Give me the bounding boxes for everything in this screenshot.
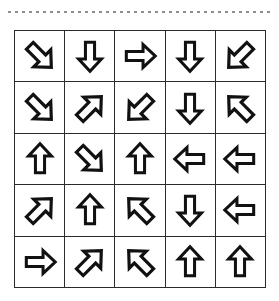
- grid-cell[interactable]: [65, 82, 115, 133]
- grid-cell[interactable]: [115, 185, 165, 236]
- dotted-separator-line: [6, 11, 274, 13]
- grid-cell[interactable]: [15, 134, 65, 185]
- grid-cell[interactable]: [65, 134, 115, 185]
- down-left-arrow-icon: [112, 79, 169, 136]
- down-arrow-icon: [71, 37, 109, 75]
- grid-cell[interactable]: [15, 82, 65, 133]
- left-arrow-icon: [221, 191, 259, 229]
- grid-cell[interactable]: [65, 237, 115, 288]
- up-arrow-icon: [221, 243, 259, 281]
- grid-cell[interactable]: [216, 82, 266, 133]
- grid-cell[interactable]: [15, 237, 65, 288]
- down-right-arrow-icon: [61, 131, 118, 188]
- up-arrow-icon: [121, 140, 159, 178]
- clipped-header-text-label: · · · · · · · ·: [4, 0, 90, 3]
- right-arrow-icon: [121, 37, 159, 75]
- grid-cell[interactable]: [166, 237, 216, 288]
- grid-cell[interactable]: [216, 237, 266, 288]
- down-arrow-icon: [171, 37, 209, 75]
- grid-cell[interactable]: [166, 31, 216, 82]
- grid-cell[interactable]: [166, 134, 216, 185]
- grid-cell[interactable]: [166, 185, 216, 236]
- down-arrow-icon: [171, 89, 209, 127]
- right-arrow-icon: [21, 243, 59, 281]
- left-arrow-icon: [221, 140, 259, 178]
- worksheet-page: · · · · · · · ·: [0, 0, 279, 301]
- left-arrow-icon: [171, 140, 209, 178]
- up-right-arrow-icon: [11, 182, 68, 239]
- grid-cell[interactable]: [115, 134, 165, 185]
- grid-cell[interactable]: [15, 31, 65, 82]
- grid-cell[interactable]: [216, 31, 266, 82]
- grid-cell[interactable]: [65, 185, 115, 236]
- up-left-arrow-icon: [112, 234, 169, 291]
- arrow-grid: [14, 30, 266, 288]
- down-right-arrow-icon: [11, 28, 68, 85]
- down-left-arrow-icon: [212, 28, 269, 85]
- up-arrow-icon: [171, 243, 209, 281]
- up-left-arrow-icon: [112, 182, 169, 239]
- clipped-header-text: · · · · · · · ·: [0, 0, 279, 7]
- grid-cell[interactable]: [115, 237, 165, 288]
- grid-cell[interactable]: [15, 185, 65, 236]
- up-right-arrow-icon: [61, 234, 118, 291]
- up-left-arrow-icon: [212, 79, 269, 136]
- up-right-arrow-icon: [61, 79, 118, 136]
- up-arrow-icon: [21, 140, 59, 178]
- grid-cell[interactable]: [216, 134, 266, 185]
- grid-cell[interactable]: [166, 82, 216, 133]
- grid-cell[interactable]: [65, 31, 115, 82]
- down-right-arrow-icon: [11, 79, 68, 136]
- up-arrow-icon: [71, 191, 109, 229]
- down-arrow-icon: [171, 191, 209, 229]
- grid-cell[interactable]: [115, 82, 165, 133]
- grid-cell[interactable]: [115, 31, 165, 82]
- grid-cell[interactable]: [216, 185, 266, 236]
